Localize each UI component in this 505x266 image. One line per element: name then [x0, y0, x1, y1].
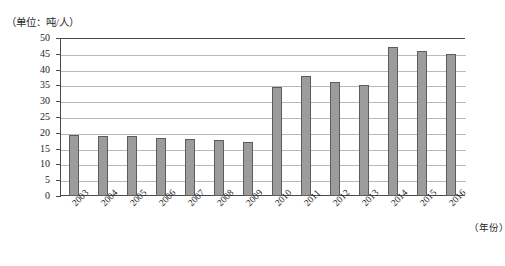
gridline	[61, 86, 466, 87]
x-axis-title: （年份）	[469, 220, 505, 234]
y-tick-label: 10	[24, 159, 50, 169]
bar	[301, 76, 311, 196]
bar	[185, 139, 195, 196]
gridline	[61, 102, 466, 103]
y-tick-label: 5	[24, 175, 50, 185]
bar	[98, 136, 108, 196]
y-tick-label: 35	[24, 80, 50, 90]
y-tick-label: 20	[24, 128, 50, 138]
figure-caption	[0, 258, 505, 266]
y-tick-mark	[56, 180, 61, 181]
y-tick-label: 30	[24, 96, 50, 106]
y-tick-mark	[56, 117, 61, 118]
y-tick-label: 15	[24, 144, 50, 154]
gridline	[61, 71, 466, 72]
bar	[243, 142, 253, 196]
bar	[388, 47, 398, 196]
y-tick-mark	[56, 70, 61, 71]
y-tick-mark	[56, 196, 61, 197]
gridline	[61, 165, 466, 166]
y-tick-mark	[56, 85, 61, 86]
gridline	[61, 134, 466, 135]
y-tick-mark	[56, 54, 61, 55]
y-tick-mark	[56, 133, 61, 134]
bar	[417, 51, 427, 196]
bar	[69, 135, 79, 196]
bar	[359, 85, 369, 196]
bar	[330, 82, 340, 196]
gridline	[61, 118, 466, 119]
y-tick-label: 50	[24, 33, 50, 43]
y-tick-label: 25	[24, 112, 50, 122]
bar	[214, 140, 224, 196]
bar	[127, 136, 137, 196]
y-tick-mark	[56, 149, 61, 150]
y-tick-mark	[56, 101, 61, 102]
bar-chart: （单位：吨/人） 05101520253035404550 2003200420…	[0, 0, 505, 266]
bar	[156, 138, 166, 196]
y-tick-label: 40	[24, 65, 50, 75]
y-tick-mark	[56, 38, 61, 39]
y-tick-label: 0	[24, 191, 50, 201]
y-tick-label: 45	[24, 49, 50, 59]
unit-label: （单位：吨/人）	[6, 14, 79, 29]
gridline	[61, 55, 466, 56]
bar	[446, 54, 456, 196]
gridline	[61, 150, 466, 151]
gridline	[61, 181, 466, 182]
plot-area	[60, 38, 465, 196]
bar	[272, 87, 282, 196]
y-tick-mark	[56, 164, 61, 165]
